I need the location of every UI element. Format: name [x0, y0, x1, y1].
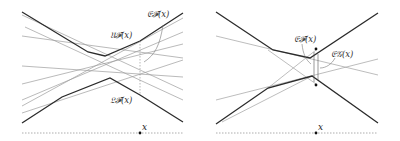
left-axis-point — [139, 132, 142, 135]
right-envelope-F-label: 𝔈𝓕(x) — [294, 34, 316, 44]
right-marker-top — [315, 48, 318, 51]
left-axis-label: x — [142, 122, 147, 132]
right-envelope-F-pointer — [302, 44, 311, 64]
figure-canvas: 𝔈𝓕(x) 𝔘𝓕(x) 𝔏𝓕(x) x 𝔈𝓕(x) 𝔈𝒢(x) x — [0, 0, 400, 141]
right-axis-point — [315, 132, 318, 135]
right-envelope-G-label: 𝔈𝒢(x) — [331, 49, 353, 59]
right-grey-lines — [216, 36, 378, 122]
left-upper-label: 𝔘𝓕(x) — [110, 30, 132, 40]
left-panel: 𝔈𝓕(x) 𝔘𝓕(x) 𝔏𝓕(x) x — [22, 9, 183, 134]
right-lower-envelope — [216, 76, 378, 124]
right-marker-bottom — [315, 84, 318, 87]
left-envelope-label: 𝔈𝓕(x) — [147, 9, 169, 19]
left-grey-lines — [22, 15, 183, 113]
left-lower-envelope — [22, 78, 183, 123]
right-axis-label: x — [318, 122, 323, 132]
right-panel: 𝔈𝓕(x) 𝔈𝒢(x) x — [216, 12, 378, 134]
left-lower-label: 𝔏𝓕(x) — [110, 95, 132, 105]
